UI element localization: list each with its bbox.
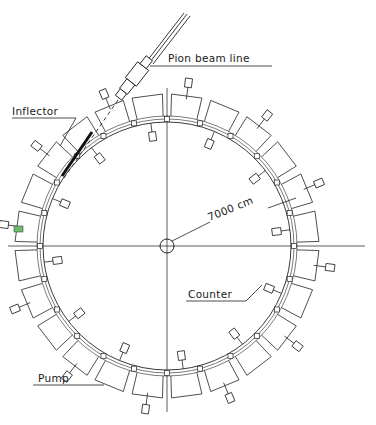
- pion-beam-line-label: Pion beam line: [168, 53, 250, 64]
- inflector-label: Inflector: [12, 106, 58, 117]
- counter-label: Counter: [188, 289, 232, 300]
- pion-beam-line: [62, 13, 190, 178]
- pump-label: Pump: [38, 373, 69, 384]
- diagram-canvas: Pion beam line Inflector 7000 cm Counter…: [0, 0, 376, 425]
- green-marker: [14, 226, 23, 232]
